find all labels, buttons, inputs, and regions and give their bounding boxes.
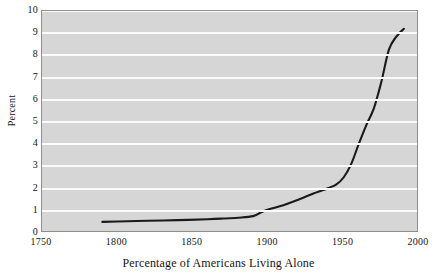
x-tick-label-1750: 1750 bbox=[21, 236, 61, 248]
y-tick-label-2: 2 bbox=[18, 183, 38, 193]
y-tick-label-7: 7 bbox=[18, 72, 38, 82]
gridline-y-2 bbox=[42, 188, 417, 190]
gridline-y-1 bbox=[42, 210, 417, 212]
chart-figure: Percent 012345678910 1750180018501900195… bbox=[0, 0, 437, 279]
y-tick-label-5: 5 bbox=[18, 116, 38, 126]
gridline-y-3 bbox=[42, 165, 417, 167]
plot-area bbox=[41, 10, 418, 232]
gridline-y-6 bbox=[42, 99, 417, 101]
gridline-y-9 bbox=[42, 32, 417, 34]
y-tick-label-8: 8 bbox=[18, 49, 38, 59]
gridline-y-8 bbox=[42, 54, 417, 56]
series-line-americans-living-alone bbox=[102, 29, 404, 222]
y-axis-tick-labels: 012345678910 bbox=[18, 10, 38, 232]
x-axis-tick-labels: 175018001850190019502000 bbox=[41, 236, 418, 250]
gridline-y-7 bbox=[42, 77, 417, 79]
y-tick-label-10: 10 bbox=[18, 5, 38, 15]
gridline-y-5 bbox=[42, 121, 417, 123]
y-tick-label-1: 1 bbox=[18, 205, 38, 215]
y-tick-label-6: 6 bbox=[18, 94, 38, 104]
gridline-y-4 bbox=[42, 143, 417, 145]
y-axis-title: Percent bbox=[6, 81, 17, 141]
x-axis-title: Percentage of Americans Living Alone bbox=[0, 256, 437, 270]
x-tick-label-1900: 1900 bbox=[247, 236, 287, 248]
x-tick-label-1950: 1950 bbox=[323, 236, 363, 248]
x-tick-label-1850: 1850 bbox=[172, 236, 212, 248]
y-tick-label-4: 4 bbox=[18, 138, 38, 148]
gridline-y-10 bbox=[42, 10, 417, 12]
y-tick-label-3: 3 bbox=[18, 160, 38, 170]
y-tick-label-9: 9 bbox=[18, 27, 38, 37]
x-tick-label-2000: 2000 bbox=[398, 236, 437, 248]
x-tick-label-1800: 1800 bbox=[96, 236, 136, 248]
